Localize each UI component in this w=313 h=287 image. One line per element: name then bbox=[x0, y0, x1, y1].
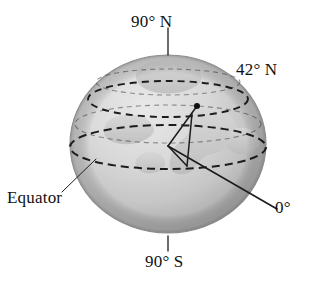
label-latitude-42n: 42° N bbox=[236, 60, 277, 80]
label-south-pole: 90° S bbox=[145, 252, 184, 272]
latitude-point-dot bbox=[194, 103, 200, 109]
label-equator: Equator bbox=[7, 188, 62, 208]
latitude-globe-figure: 90° N 42° N Equator 0° 90° S bbox=[0, 0, 313, 287]
label-zero-degree: 0° bbox=[275, 198, 291, 218]
label-north-pole: 90° N bbox=[131, 12, 172, 32]
globe-illustration bbox=[0, 0, 313, 287]
